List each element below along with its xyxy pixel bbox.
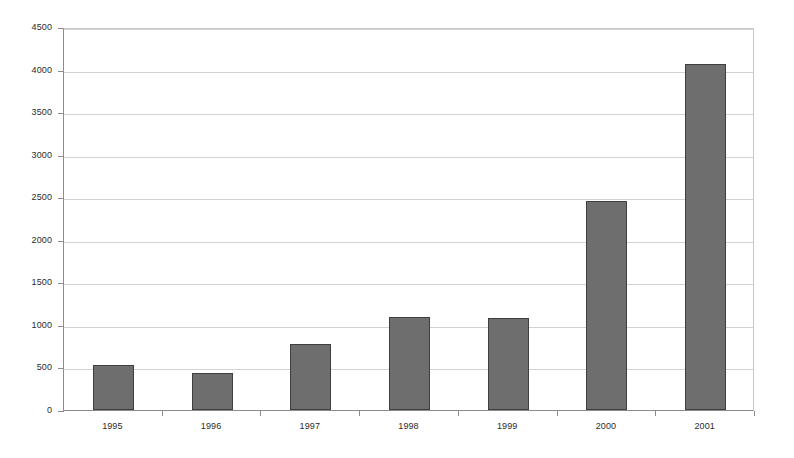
y-tick-label: 2500 bbox=[32, 193, 52, 202]
x-tick-mark bbox=[458, 411, 459, 416]
bar-1995 bbox=[93, 365, 134, 410]
y-tick-label: 3500 bbox=[32, 108, 52, 117]
gridline bbox=[64, 114, 753, 115]
x-tick-mark bbox=[260, 411, 261, 416]
x-tick-mark bbox=[162, 411, 163, 416]
gridline bbox=[64, 199, 753, 200]
gridline bbox=[64, 29, 753, 30]
bar-1996 bbox=[192, 373, 233, 410]
x-tick-label: 1996 bbox=[162, 421, 261, 431]
x-tick-label: 2001 bbox=[655, 421, 754, 431]
plot-area bbox=[63, 28, 754, 411]
bar-1997 bbox=[290, 344, 331, 410]
bar-2000 bbox=[586, 201, 627, 410]
x-tick-label: 1995 bbox=[63, 421, 162, 431]
gridline bbox=[64, 72, 753, 73]
y-tick-label: 0 bbox=[47, 406, 52, 415]
x-tick-label: 1997 bbox=[260, 421, 359, 431]
bar-1999 bbox=[488, 318, 529, 410]
gridline bbox=[64, 242, 753, 243]
y-tick-label: 1000 bbox=[32, 321, 52, 330]
x-tick-mark bbox=[655, 411, 656, 416]
x-tick-label: 2000 bbox=[557, 421, 656, 431]
bar-chart: 050010001500200025003000350040004500 199… bbox=[0, 0, 794, 458]
bar-2001 bbox=[685, 64, 726, 410]
x-tick-mark bbox=[754, 411, 755, 416]
gridline bbox=[64, 284, 753, 285]
y-tick-label: 500 bbox=[37, 363, 52, 372]
y-tick-label: 3000 bbox=[32, 151, 52, 160]
x-tick-mark bbox=[359, 411, 360, 416]
gridline bbox=[64, 412, 753, 413]
x-tick-label: 1999 bbox=[458, 421, 557, 431]
x-tick-mark bbox=[557, 411, 558, 416]
y-tick-label: 4500 bbox=[32, 23, 52, 32]
y-tick-label: 4000 bbox=[32, 66, 52, 75]
y-tick-label: 1500 bbox=[32, 278, 52, 287]
gridline bbox=[64, 157, 753, 158]
bar-1998 bbox=[389, 317, 430, 410]
y-tick-label: 2000 bbox=[32, 236, 52, 245]
x-tick-label: 1998 bbox=[359, 421, 458, 431]
